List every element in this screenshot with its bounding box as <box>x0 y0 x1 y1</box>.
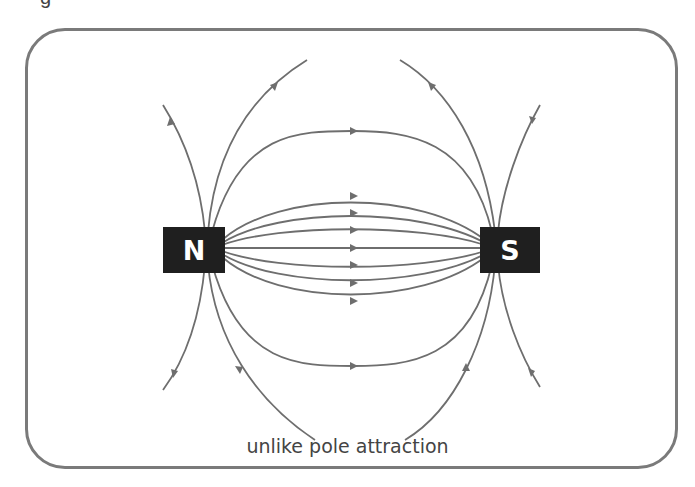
field-line-inner-1 <box>222 203 485 241</box>
south-pole-label: S <box>500 235 519 266</box>
diagram-caption: unlike pole attraction <box>0 435 695 457</box>
magnetic-field-lines <box>0 0 695 487</box>
north-pole-label: N <box>183 235 206 266</box>
north-pole-magnet: N <box>163 227 225 273</box>
south-pole-magnet: S <box>480 227 540 273</box>
